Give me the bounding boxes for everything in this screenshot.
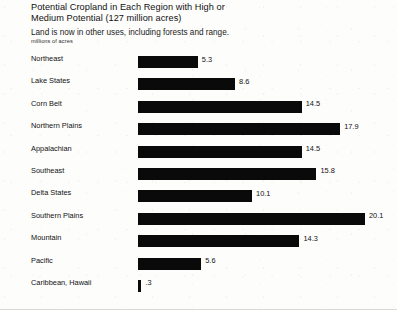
chart-row: Lake States8.6	[0, 74, 397, 96]
bar-track	[138, 123, 340, 135]
bar-track	[138, 78, 235, 90]
bar-track	[138, 258, 201, 270]
category-label: Northern Plains	[31, 120, 82, 131]
category-label: Lake States	[31, 75, 70, 86]
bar-track	[138, 56, 198, 68]
bar-value-label: 10.1	[256, 189, 270, 199]
bar	[138, 78, 235, 90]
bar-value-label: 17.9	[344, 122, 358, 132]
chart-row: Northeast5.3	[0, 52, 397, 74]
bar-value-label: 5.3	[202, 55, 212, 65]
bar-value-label: 14.3	[303, 234, 317, 244]
bar	[138, 168, 316, 180]
bar	[138, 235, 299, 247]
category-label: Corn Belt	[31, 98, 62, 109]
bar-track	[138, 280, 141, 292]
chart-row: Delta States10.1	[0, 186, 397, 208]
bar-value-label: .3	[145, 278, 151, 288]
bar-track	[138, 101, 302, 113]
bar-value-label: 5.6	[205, 256, 215, 266]
chart-row: Pacific5.6	[0, 254, 397, 276]
bar	[138, 213, 365, 225]
chart-row: Corn Belt14.5	[0, 97, 397, 119]
chart-row: Southeast15.8	[0, 164, 397, 186]
bar-track	[138, 213, 365, 225]
bar-value-label: 14.5	[306, 144, 320, 154]
chart-row: Northern Plains17.9	[0, 119, 397, 141]
category-label: Southeast	[31, 165, 64, 176]
chart-row: Caribbean, Hawaii.3	[0, 276, 397, 298]
bar	[138, 123, 340, 135]
chart-row: Southern Plains20.1	[0, 209, 397, 231]
bar	[138, 56, 198, 68]
category-label: Southern Plains	[31, 210, 83, 221]
bar-value-label: 20.1	[369, 211, 383, 221]
chart-page: Potential Cropland in Each Region with H…	[0, 0, 397, 310]
bar-track	[138, 146, 302, 158]
chart-title: Potential Cropland in Each Region with H…	[31, 2, 371, 25]
category-label: Appalachian	[31, 143, 72, 154]
bar	[138, 190, 252, 202]
bar-value-label: 15.8	[320, 166, 334, 176]
x-axis-unit-label: millions of acres	[31, 38, 73, 44]
bar	[138, 101, 302, 113]
category-label: Delta States	[31, 187, 71, 198]
category-label: Pacific	[31, 255, 53, 266]
bar-track	[138, 168, 316, 180]
chart-row: Appalachian14.5	[0, 142, 397, 164]
bar	[138, 146, 302, 158]
bar-chart-plot: Northeast5.3Lake States8.6Corn Belt14.5N…	[0, 52, 397, 304]
chart-row: Mountain14.3	[0, 231, 397, 253]
category-label: Northeast	[31, 53, 63, 64]
category-label: Mountain	[31, 232, 61, 243]
bar	[138, 258, 201, 270]
chart-header: Potential Cropland in Each Region with H…	[31, 2, 371, 38]
bar-track	[138, 235, 299, 247]
bar-value-label: 8.6	[239, 77, 249, 87]
category-label: Caribbean, Hawaii	[31, 277, 91, 288]
bar	[138, 280, 141, 292]
chart-subtitle: Land is now in other uses, including for…	[31, 27, 371, 38]
bar-value-label: 14.5	[306, 99, 320, 109]
bar-track	[138, 190, 252, 202]
